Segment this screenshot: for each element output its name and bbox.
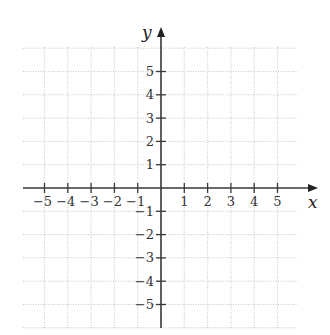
y-axis-label: y xyxy=(141,22,152,42)
y-tick-label: −5 xyxy=(135,297,154,312)
y-axis-arrow-icon xyxy=(157,27,165,37)
x-axis-arrow-icon xyxy=(308,184,318,192)
x-tick-label: −2 xyxy=(103,194,122,209)
coordinate-plane: −5−4−3−2−112345 54321−1−2−3−4−5 x y xyxy=(0,0,330,335)
x-tick-label: −5 xyxy=(33,194,52,209)
x-tick-label: 3 xyxy=(227,194,235,209)
x-ticks: −5−4−3−2−112345 xyxy=(33,183,282,209)
x-tick-label: 5 xyxy=(273,194,281,209)
x-axis-label: x xyxy=(308,192,318,212)
y-tick-label: −3 xyxy=(135,250,154,265)
y-tick-label: 5 xyxy=(146,64,154,79)
y-tick-label: 3 xyxy=(146,111,154,126)
x-tick-label: 4 xyxy=(250,194,258,209)
y-tick-label: 4 xyxy=(146,87,154,102)
y-tick-label: 2 xyxy=(146,134,154,149)
y-tick-label: −1 xyxy=(135,204,154,219)
x-tick-label: 2 xyxy=(203,194,211,209)
y-tick-label: 1 xyxy=(146,157,154,172)
x-tick-label: −4 xyxy=(56,194,75,209)
x-tick-label: 1 xyxy=(180,194,188,209)
y-tick-label: −4 xyxy=(135,274,154,289)
y-tick-label: −2 xyxy=(135,227,154,242)
x-tick-label: −3 xyxy=(80,194,99,209)
